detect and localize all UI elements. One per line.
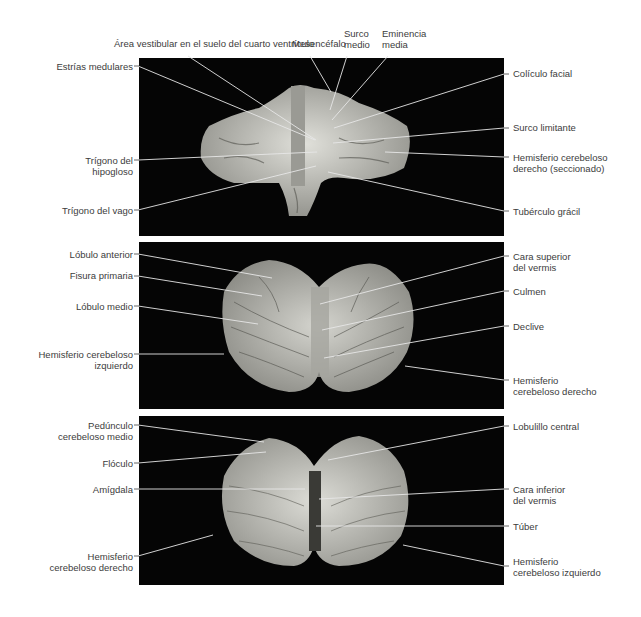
label-fisura-primaria: Fisura primaria [70, 270, 133, 281]
label-lobulillo-central: Lobulillo central [513, 421, 579, 432]
label-declive: Declive [513, 321, 544, 332]
label-culmen: Culmen [513, 286, 546, 297]
label-trigono-vago: Trígono del vago [62, 205, 133, 216]
label-area-vestibular: Área vestibular en el suelo del cuarto v… [114, 38, 314, 49]
panel-fourth-ventricle-photo [139, 58, 504, 236]
label-lobulo-medio: Lóbulo medio [76, 301, 133, 312]
label-trigono-hipogloso: Trígono del hipogloso [85, 155, 133, 177]
label-cara-inferior-vermis: Cara inferior del vermis [513, 484, 565, 506]
label-tuber: Túber [513, 521, 538, 532]
label-surco-medio-text: Surco medio [344, 28, 370, 50]
label-hemisferio-derecho: Hemisferio cerebeloso derecho [513, 375, 596, 397]
cerebellum-superior-image [139, 242, 504, 409]
label-floculo: Flóculo [102, 458, 133, 469]
label-surco-limitante: Surco limitante [513, 122, 576, 133]
panel-superior-view-photo [139, 242, 504, 409]
label-hemisferio-izquierdo: Hemisferio cerebeloso izquierdo [38, 349, 133, 371]
panel-inferior-view-photo [139, 416, 504, 585]
label-eminencia-media-text: Eminencia media [382, 28, 426, 50]
label-surco-medio: Surco medio [344, 28, 370, 50]
label-hemisferio-izquierdo-inferior: Hemisferio cerebeloso izquierdo [513, 556, 601, 578]
label-pedunculo-cerebeloso-medio: Pedúnculo cerebeloso medio [58, 420, 133, 442]
label-hemisferio-derecho-inferior: Hemisferio cerebeloso derecho [50, 551, 133, 573]
label-amigdala: Amígdala [93, 484, 133, 495]
cerebellum-inferior-image [139, 416, 504, 585]
label-cara-superior-vermis: Cara superior del vermis [513, 251, 571, 273]
label-estrias-medulares: Estrías medulares [56, 61, 133, 72]
label-tuberculo-gracil: Tubérculo grácil [513, 206, 580, 217]
label-hemisferio-derecho-seccionado: Hemisferio cerebeloso derecho (seccionad… [513, 152, 608, 174]
cerebellum-section-image [139, 58, 504, 236]
label-coliculo-facial: Colículo facial [513, 68, 572, 79]
label-eminencia-media: Eminencia media [382, 28, 426, 50]
label-lobulo-anterior: Lóbulo anterior [70, 249, 133, 260]
label-mesencefalo: Mesencéfalo [292, 38, 346, 49]
